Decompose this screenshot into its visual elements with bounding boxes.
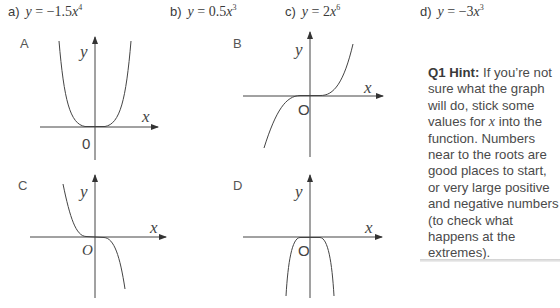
graph-label-a: A <box>20 36 29 51</box>
graph-label-b: B <box>233 36 242 51</box>
origin-label: O <box>82 242 93 259</box>
x-axis-label: x <box>150 218 158 238</box>
origin-label: O <box>298 101 310 118</box>
graph-a <box>40 37 158 160</box>
graph-label-d: D <box>233 178 242 193</box>
graph-d <box>243 175 382 298</box>
origin-label: 0 <box>82 135 90 152</box>
y-axis-label: y <box>80 42 88 62</box>
graph-b <box>243 32 383 157</box>
graph-label-c: C <box>18 178 27 193</box>
y-axis-label: y <box>295 40 303 60</box>
graph-c <box>30 175 166 298</box>
hint-text-cont: into the function. Numbers near to the r… <box>428 114 559 260</box>
x-axis-label: x <box>364 78 372 98</box>
hint-title: Q1 Hint: <box>428 65 479 80</box>
y-axis-label: y <box>80 182 88 202</box>
x-axis-label: x <box>365 218 373 238</box>
hint-box: Q1 Hint: If you’re not sure what the gra… <box>428 65 560 262</box>
x-axis-label: x <box>142 107 150 127</box>
hint-divider <box>420 259 560 262</box>
y-axis-label: y <box>295 182 303 202</box>
origin-label: O <box>298 242 310 259</box>
